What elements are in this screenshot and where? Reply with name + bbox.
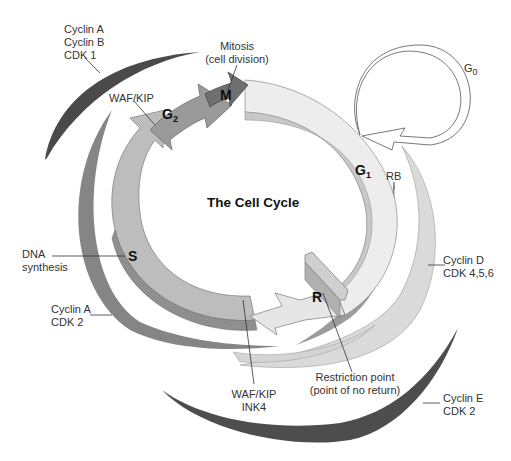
cyclin-d-cdk456-arc [240,146,435,368]
label-rb: RB [386,170,401,182]
phase-label-m: M [220,87,232,103]
diagram-title: The Cell Cycle [207,195,300,210]
label-point-of-no-return: (point of no return) [310,384,401,396]
phase-label-s: S [128,248,137,264]
label-mitosis: Mitosis [220,40,255,52]
label-cdk456: CDK 4,5,6 [443,267,494,279]
label-cdk1: CDK 1 [64,49,96,61]
label-cyclin-a-left: Cyclin A [51,303,91,315]
label-restriction-point: Restriction point [316,371,395,383]
cell-cycle-diagram: The Cell Cycle M G1 S G2 G0 R Mitosis (c… [0,0,511,461]
label-dna: DNA [22,248,46,260]
label-cyclin-b: Cyclin B [64,36,104,48]
label-cyclin-a-top: Cyclin A [64,23,104,35]
label-ink4: INK4 [242,401,266,413]
label-cyclin-e: Cyclin E [443,392,483,404]
restriction-marker-r: R [312,289,322,305]
label-cdk2-left: CDK 2 [51,316,83,328]
s-phase-band[interactable] [112,110,255,320]
label-waf-kip-top: WAF/KIP [109,92,154,104]
label-cell-division: (cell division) [205,53,269,65]
label-cdk2-bottom: CDK 2 [443,405,475,417]
phase-label-g0: G0 [464,62,478,77]
label-cyclin-d: Cyclin D [443,254,484,266]
g0-loop [355,45,471,150]
cyclin-a-b-cdk1-arc [45,52,200,160]
label-synthesis: synthesis [22,261,68,273]
label-waf-kip-bottom: WAF/KIP [232,388,277,400]
